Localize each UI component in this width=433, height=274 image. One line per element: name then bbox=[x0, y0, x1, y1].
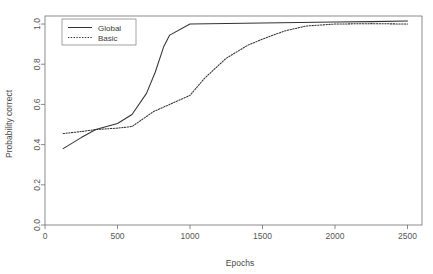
x-tick-label: 0 bbox=[43, 231, 48, 241]
y-axis-tick-labels: 0.00.20.40.60.81.0 bbox=[32, 18, 42, 231]
y-axis-title: Probability correct bbox=[4, 89, 14, 158]
plot-canvas: 05001000150020002500 0.00.20.40.60.81.0 … bbox=[0, 0, 433, 274]
chart-figure: 05001000150020002500 0.00.20.40.60.81.0 … bbox=[0, 0, 433, 274]
x-tick-label: 2000 bbox=[326, 231, 345, 241]
x-axis-ticks bbox=[45, 225, 408, 229]
x-tick-label: 1500 bbox=[253, 231, 272, 241]
y-axis-ticks bbox=[41, 24, 45, 225]
y-tick-label: 0.0 bbox=[32, 219, 42, 231]
plot-frame bbox=[45, 16, 422, 225]
y-tick-label: 0.8 bbox=[32, 58, 42, 70]
x-tick-label: 1000 bbox=[181, 231, 200, 241]
y-tick-label: 0.6 bbox=[32, 98, 42, 110]
x-axis-title: Epochs bbox=[226, 258, 254, 268]
legend-label-global: Global bbox=[98, 24, 121, 33]
chart-legend: Global Basic bbox=[62, 19, 136, 45]
y-tick-label: 1.0 bbox=[32, 18, 42, 30]
y-tick-label: 0.4 bbox=[32, 138, 42, 150]
x-tick-label: 2500 bbox=[398, 231, 417, 241]
legend-label-basic: Basic bbox=[98, 34, 118, 43]
y-tick-label: 0.2 bbox=[32, 179, 42, 191]
x-tick-label: 500 bbox=[110, 231, 124, 241]
x-axis-tick-labels: 05001000150020002500 bbox=[43, 231, 418, 241]
plot-border bbox=[45, 16, 422, 225]
